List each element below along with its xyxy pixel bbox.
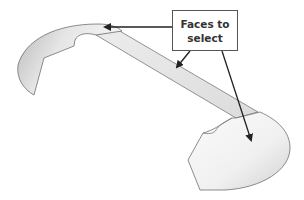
arrow-to-middle-face bbox=[177, 51, 190, 67]
cad-part-diagram bbox=[0, 0, 304, 200]
callout-line-2: select bbox=[180, 31, 229, 45]
right-face[interactable] bbox=[188, 112, 290, 190]
callout-line-1: Faces to bbox=[180, 17, 229, 31]
callout-box: Faces to select bbox=[172, 10, 238, 51]
